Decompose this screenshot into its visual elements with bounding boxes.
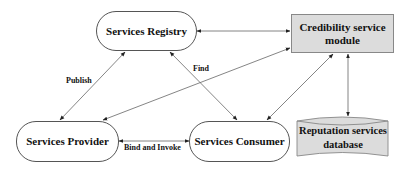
node-services-registry: Services Registry (96, 11, 197, 51)
edge-label-publish: Publish (66, 76, 92, 85)
edge-label-find: Find (193, 64, 209, 73)
node-services-consumer-label: Services Consumer (194, 135, 284, 148)
node-database-label-line2: database (297, 138, 389, 152)
node-services-registry-label: Services Registry (106, 25, 187, 38)
soa-credibility-diagram: Services Registry Credibility service mo… (0, 0, 406, 172)
node-credibility-label-line1: Credibility service (299, 21, 385, 34)
edge-find (170, 52, 237, 120)
edge-publish (60, 52, 125, 120)
node-credibility-service-module: Credibility service module (291, 14, 394, 53)
node-services-consumer: Services Consumer (189, 121, 290, 162)
node-database-label-line1: Reputation services (297, 124, 389, 138)
edge-consumer-credibility (267, 54, 333, 120)
edge-label-bind-and-invoke: Bind and Invoke (124, 143, 181, 152)
node-reputation-database: Reputation services database (297, 124, 389, 152)
edge-provider-credibility (103, 48, 290, 120)
node-services-provider: Services Provider (16, 121, 119, 162)
node-services-provider-label: Services Provider (26, 135, 109, 148)
node-credibility-label-line2: module (325, 34, 360, 47)
